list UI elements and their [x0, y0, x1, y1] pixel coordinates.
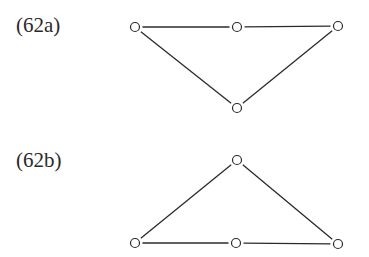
edge-a2-a3 — [244, 26, 330, 27]
node-b2 — [131, 239, 140, 248]
node-b1 — [233, 156, 242, 165]
node-a2 — [233, 23, 242, 32]
edge-a3-a4 — [243, 31, 332, 104]
edge-b1-b2 — [141, 165, 231, 239]
edge-b1-b4 — [243, 165, 332, 239]
graph-diagrams — [0, 0, 369, 257]
node-a4 — [233, 104, 242, 113]
node-a1 — [131, 23, 140, 32]
node-b4 — [334, 240, 343, 249]
edge-a1-a4 — [141, 32, 231, 104]
node-a3 — [334, 22, 343, 31]
edge-b3-b4 — [243, 243, 330, 244]
node-b3 — [232, 239, 241, 248]
